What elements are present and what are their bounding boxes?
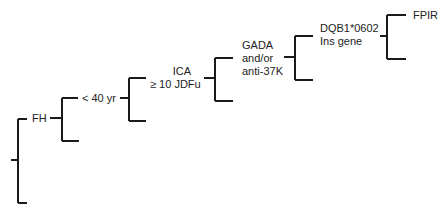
node-ica-line2: ≥ 10 JDFu [150, 78, 201, 91]
tree-lines [0, 0, 446, 213]
node-ica-line1: ICA [163, 65, 201, 78]
node-gada-line2: and/or [242, 52, 283, 65]
node-dqb1-line2: Ins gene [320, 35, 379, 48]
node-gada-line3: anti-37K [242, 65, 283, 78]
node-gada: GADA and/or anti-37K [242, 39, 283, 78]
node-dqb1: DQB1*0602 Ins gene [320, 22, 379, 48]
node-gada-line1: GADA [242, 39, 283, 52]
node-age: < 40 yr [82, 92, 116, 105]
node-dqb1-line1: DQB1*0602 [320, 22, 379, 35]
node-fpir: FPIR [413, 9, 438, 22]
node-fh: FH [32, 112, 47, 125]
node-ica: ICA ≥ 10 JDFu [163, 65, 201, 91]
